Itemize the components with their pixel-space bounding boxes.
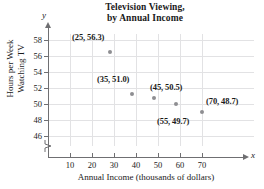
x-tick-mark [158,153,159,158]
axis-break-icon [44,140,53,152]
data-point [200,110,204,114]
data-point [174,102,178,106]
y-axis-title-line-1: Hours per Week [5,9,16,129]
x-tick-mark [180,153,181,158]
y-tick-mark [44,56,49,57]
x-axis-line [48,157,244,158]
y-axis-letter: y [42,10,46,20]
x-tick-mark [70,153,71,158]
x-tick-mark [136,153,137,158]
data-point [108,50,112,54]
y-tick-mark [44,136,49,137]
y-tick-mark [44,104,49,105]
point-label-25: (25, 56.3) [72,32,104,42]
chart-title-line-1: Television Viewing, [60,2,230,13]
gridline-horizontal [48,72,254,73]
y-axis-line [48,28,49,158]
gridline-horizontal [48,120,254,121]
data-point [130,92,134,96]
x-tick-mark [114,153,115,158]
x-axis-letter: x [251,150,255,160]
y-axis-title-line-2: Watching TV [15,9,26,129]
y-tick-mark [44,40,49,41]
point-label-35: (35, 51.0) [97,74,129,84]
y-axis-arrow-icon [45,22,51,28]
y-tick-mark [44,88,49,89]
gridline-vertical [92,34,93,146]
y-tick-mark [44,120,49,121]
gridline-horizontal [48,136,254,137]
gridline-vertical [136,34,137,146]
x-tick-mark [92,153,93,158]
chart-title-line-2: by Annual Income [60,13,230,24]
y-tick-mark [44,72,49,73]
x-tick-label: 70 [189,160,215,170]
y-tick-label: 46 [2,132,42,141]
x-axis-title: Annual Income (thousands of dollars) [36,172,256,182]
gridline-vertical [114,34,115,146]
data-point [152,96,156,100]
point-label-70: (70, 48.7) [206,96,238,106]
gridline-vertical [70,34,71,146]
x-axis-arrow-icon [243,154,249,160]
scatter-plot-figure: Television Viewing, by Annual Income (25… [0,0,264,189]
point-label-45: (45, 50.5) [150,82,182,92]
chart-title: Television Viewing, by Annual Income [60,2,230,24]
point-label-55: (55, 49.7) [157,116,189,126]
x-tick-mark [202,153,203,158]
gridline-vertical [202,34,203,146]
y-axis-title: Hours per Week Watching TV [5,9,26,129]
gridline-horizontal [48,56,254,57]
